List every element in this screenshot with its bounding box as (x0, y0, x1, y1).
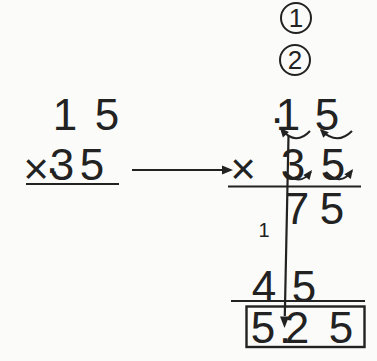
step-1-label: 1 (289, 3, 303, 34)
answer-tenths: 2 (285, 306, 309, 350)
left-multiplier-tenths: 3 (50, 143, 74, 187)
partial-product-1-tens: 7 (285, 187, 309, 231)
right-multiplier-tens: 3 (281, 143, 305, 187)
partial-product-1-ones: 5 (320, 187, 344, 231)
right-times-sign: × (230, 147, 256, 191)
right-multiplicand-hundredths: 5 (315, 93, 339, 137)
left-multiplicand-ones: 5 (95, 93, 119, 137)
answer-ones: 5 (251, 306, 275, 350)
left-multiplicand-tens: 1 (53, 93, 77, 137)
right-multiplicand-tenths: 1 (276, 93, 300, 137)
right-multiplier-ones: 5 (321, 143, 345, 187)
step-1-badge: 1 (280, 2, 312, 34)
decimal-multiplication-diagram: 1 2 1 5 × . 3 5 . 1 5 × 3 5 7 5 1 4 5 5 … (0, 0, 377, 361)
decimal-shift-right-arrowhead-2 (344, 169, 353, 179)
left-multiplier-hundredths: 5 (80, 143, 104, 187)
answer-hundredths: 5 (329, 306, 353, 350)
step-2-badge: 2 (279, 44, 311, 76)
carry-digit: 1 (258, 220, 269, 240)
step-2-label: 2 (288, 45, 302, 76)
